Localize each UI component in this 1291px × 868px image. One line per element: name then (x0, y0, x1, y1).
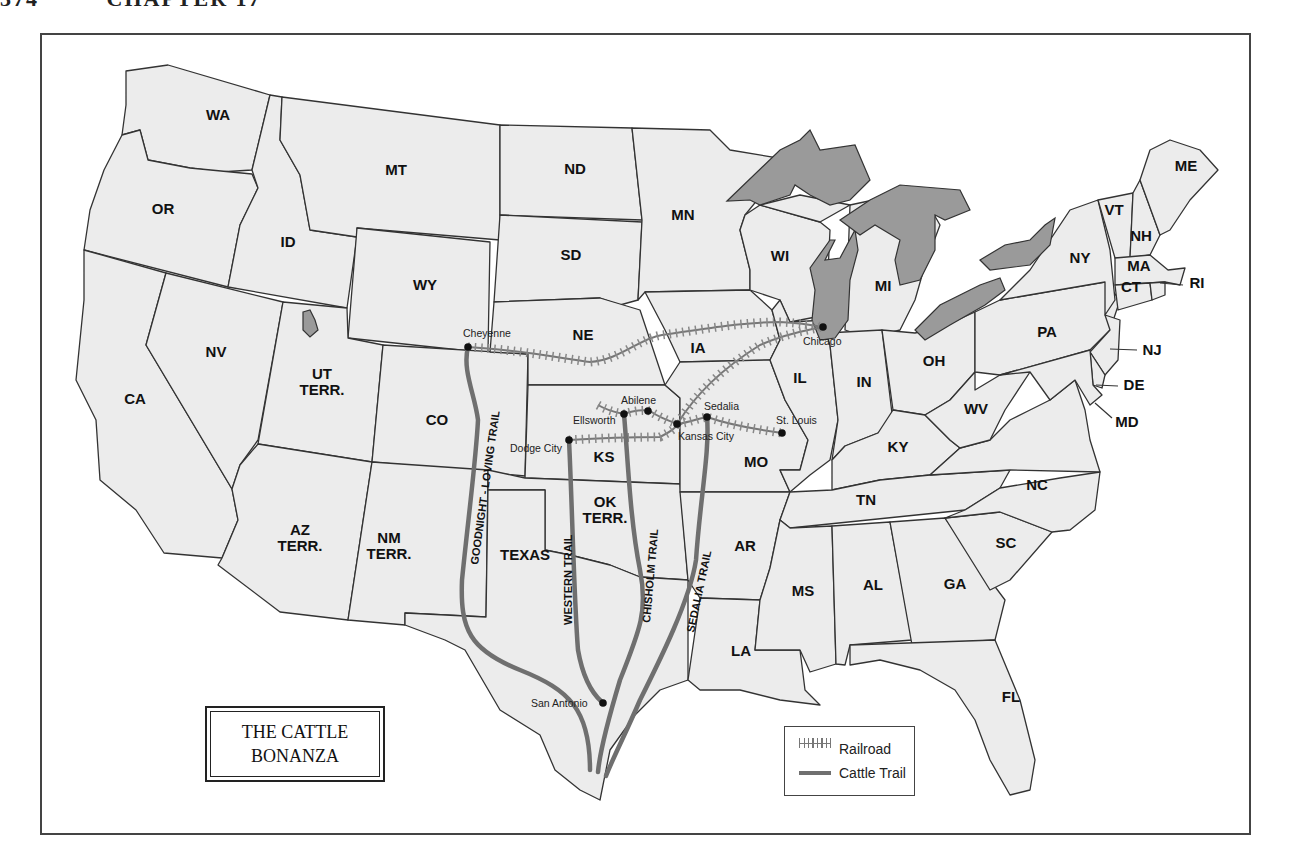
legend-row-railroad: Railroad (799, 741, 891, 757)
state-label-mi: MI (875, 277, 892, 294)
state-label-nj: NJ (1142, 341, 1161, 358)
state-label-ri: RI (1190, 274, 1205, 291)
city-dot-abilene (644, 407, 652, 415)
city-label-ellsworth: Ellsworth (573, 414, 616, 426)
city-dot-st-louis (778, 429, 786, 437)
state-label-nc: NC (1026, 476, 1048, 493)
state-label-mt: MT (385, 161, 407, 178)
state-co (372, 345, 528, 476)
state-ia (645, 290, 780, 362)
state-label-vt: VT (1104, 201, 1123, 218)
state-label-wi: WI (771, 247, 789, 264)
state-label-sc: SC (996, 534, 1017, 551)
city-dot-cheyenne (464, 343, 472, 351)
state-label-ms: MS (792, 582, 815, 599)
state-label-fl: FL (1002, 688, 1020, 705)
state-label-nh: NH (1130, 227, 1152, 244)
city-dot-san-antonio (599, 699, 607, 707)
state-label-pa: PA (1037, 323, 1057, 340)
map-legend: Railroad Cattle Trail (784, 726, 915, 796)
state-label-nm-1: NM (377, 529, 400, 546)
city-label-abilene: Abilene (621, 394, 656, 406)
legend-label-railroad: Railroad (839, 741, 891, 757)
state-label-ok-2: TERR. (583, 509, 628, 526)
state-ri (1150, 282, 1165, 300)
state-label-tn: TN (856, 491, 876, 508)
state-label-ma: MA (1127, 257, 1150, 274)
state-label-mo: MO (744, 453, 768, 470)
state-label-tx: TEXAS (500, 546, 550, 563)
state-label-ca: CA (124, 390, 146, 407)
state-label-az-2: TERR. (278, 537, 323, 554)
state-label-az-1: AZ (290, 521, 310, 538)
map-title-box: THE CATTLE BONANZA (205, 706, 385, 782)
map-title-line-1: THE CATTLE (242, 720, 348, 744)
state-label-nm-2: TERR. (367, 545, 412, 562)
state-label-in: IN (857, 373, 872, 390)
state-label-wa: WA (206, 106, 230, 123)
state-label-mn: MN (671, 206, 694, 223)
state-label-co: CO (426, 411, 449, 428)
state-label-ok-1: OK (594, 493, 617, 510)
state-label-ny: NY (1070, 249, 1091, 266)
state-label-ia: IA (691, 339, 706, 356)
legend-label-cattle-trail: Cattle Trail (839, 765, 906, 781)
leader-md (1095, 403, 1112, 418)
state-label-al: AL (863, 576, 883, 593)
trail-label-western: WESTERN TRAIL (562, 534, 574, 625)
state-label-ut-1: UT (312, 365, 332, 382)
map-title-line-2: BONANZA (251, 744, 339, 768)
state-label-or: OR (152, 200, 175, 217)
city-dot-dodge-city (565, 436, 573, 444)
state-label-la: LA (731, 642, 751, 659)
state-label-wy: WY (413, 276, 437, 293)
state-label-md: MD (1115, 413, 1138, 430)
state-label-ky: KY (888, 438, 909, 455)
state-label-sd: SD (561, 246, 582, 263)
state-label-ct: CT (1121, 278, 1141, 295)
city-label-sedalia: Sedalia (704, 400, 739, 412)
legend-row-cattle-trail: Cattle Trail (799, 765, 906, 781)
railroad-symbol-icon (799, 743, 831, 756)
state-label-de: DE (1124, 376, 1145, 393)
state-label-me: ME (1175, 157, 1198, 174)
state-label-oh: OH (923, 352, 946, 369)
city-label-dodge-city: Dodge City (510, 442, 563, 454)
state-label-ut-2: TERR. (300, 381, 345, 398)
state-label-nv: NV (206, 343, 227, 360)
city-dot-kansas-city (673, 420, 681, 428)
state-label-il: IL (793, 369, 806, 386)
city-dot-ellsworth (620, 410, 628, 418)
city-label-kansas-city: Kansas City (678, 430, 735, 442)
city-label-st-louis: St. Louis (776, 414, 817, 426)
us-map: Cheyenne Chicago Abilene Ellsworth Kansa… (0, 0, 1291, 868)
state-label-ks: KS (594, 448, 615, 465)
city-label-san-antonio: San Antonio (531, 697, 588, 709)
city-dot-sedalia (703, 413, 711, 421)
state-label-ar: AR (734, 537, 756, 554)
cattle-trail-symbol-icon (799, 771, 831, 775)
state-label-id: ID (281, 233, 296, 250)
city-label-chicago: Chicago (803, 335, 842, 347)
state-label-nd: ND (564, 160, 586, 177)
state-label-ne: NE (573, 326, 594, 343)
state-label-wv: WV (964, 400, 988, 417)
city-label-cheyenne: Cheyenne (463, 327, 511, 339)
city-dot-chicago (819, 323, 827, 331)
state-label-ga: GA (944, 575, 967, 592)
